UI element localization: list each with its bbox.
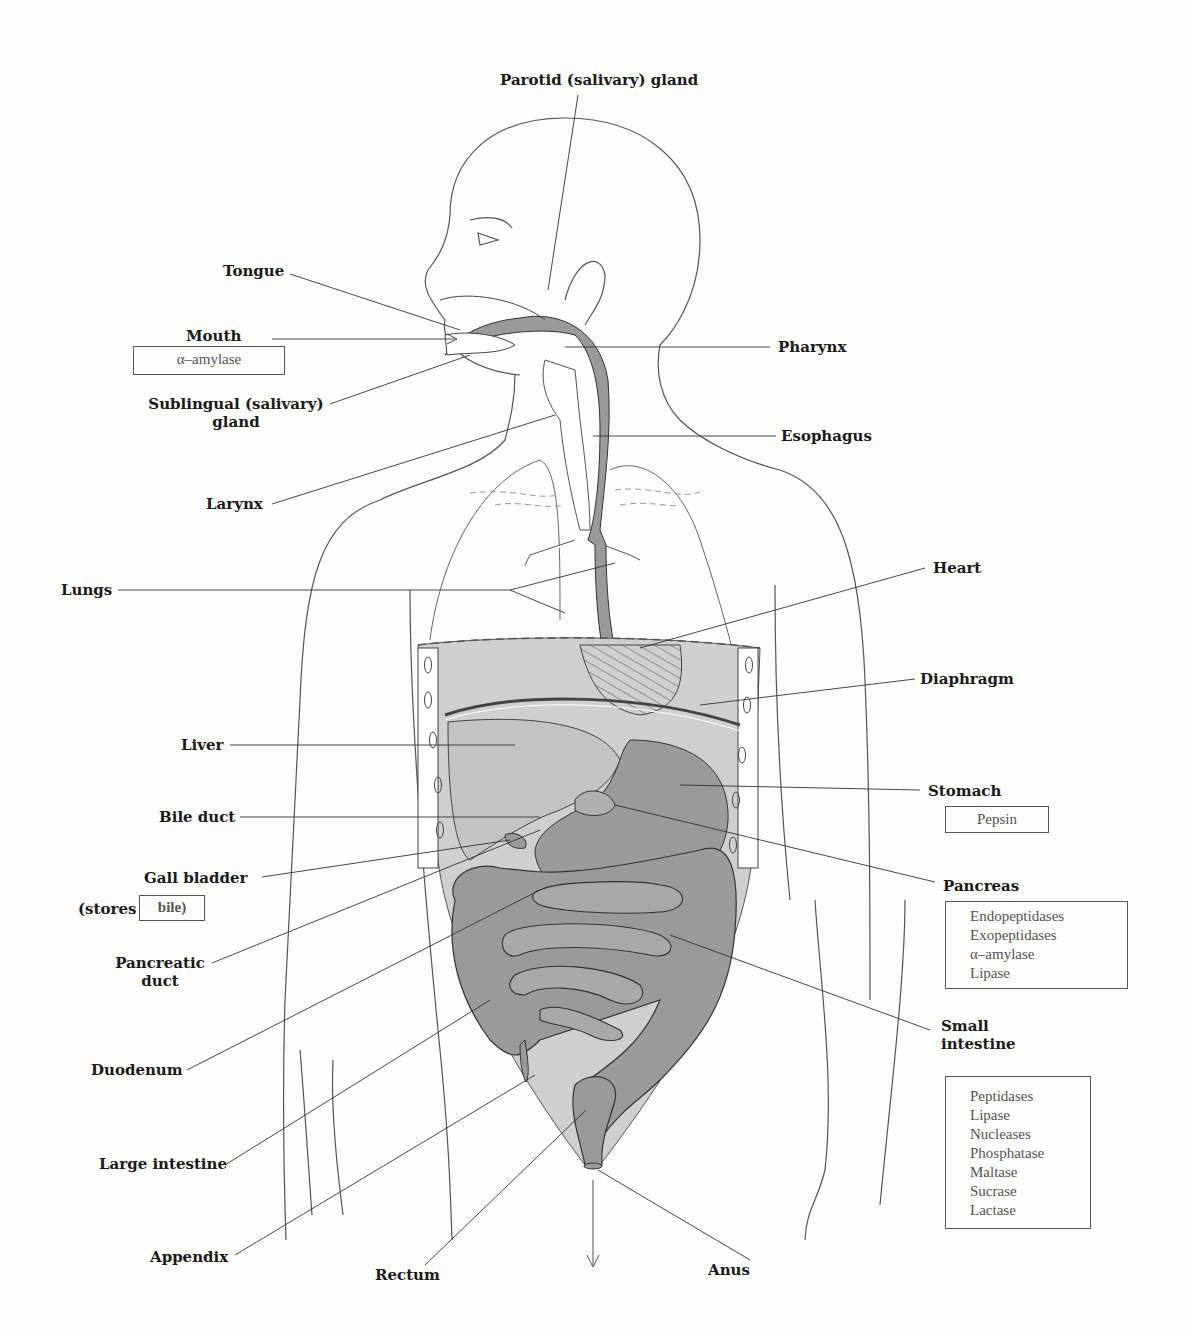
enzyme-nucleases: Nucleases xyxy=(970,1125,1090,1144)
label-sublingual-gland: Sublingual (salivary) gland xyxy=(146,395,326,431)
label-sublingual-line2: gland xyxy=(146,413,326,431)
label-parotid-gland: Parotid (salivary) gland xyxy=(500,71,698,89)
label-stores: (stores xyxy=(78,900,136,918)
enzyme-exopeptidases: Exopeptidases xyxy=(970,926,1127,945)
label-anus: Anus xyxy=(708,1261,750,1279)
label-liver: Liver xyxy=(181,736,223,754)
label-small-line2: intestine xyxy=(941,1035,1016,1053)
label-pancreas: Pancreas xyxy=(943,877,1019,895)
enzyme-endopeptidases: Endopeptidases xyxy=(970,907,1127,926)
label-larynx: Larynx xyxy=(206,495,263,513)
label-diaphragm: Diaphragm xyxy=(920,670,1014,688)
label-sublingual-line1: Sublingual (salivary) xyxy=(146,395,326,413)
label-pancreatic-line2: duct xyxy=(110,972,210,990)
enzyme-alpha-amylase: α–amylase xyxy=(134,347,284,369)
mouth-cavity xyxy=(445,333,515,355)
enzyme-peptidases: Peptidases xyxy=(970,1087,1090,1106)
label-esophagus: Esophagus xyxy=(781,427,872,445)
enzyme-pepsin: Pepsin xyxy=(946,807,1048,829)
anus xyxy=(584,1163,602,1169)
label-rectum: Rectum xyxy=(375,1266,440,1284)
label-small-intestine: Small intestine xyxy=(941,1017,1016,1053)
label-large-intestine: Large intestine xyxy=(99,1155,227,1173)
label-heart: Heart xyxy=(933,559,981,577)
enzyme-box-gall-bladder: bile) xyxy=(139,895,205,921)
label-tongue: Tongue xyxy=(223,262,284,280)
label-bile-duct: Bile duct xyxy=(159,808,235,826)
trachea xyxy=(525,360,640,565)
label-small-line1: Small xyxy=(941,1017,1016,1035)
enzyme-box-stomach: Pepsin xyxy=(945,806,1049,833)
enzyme-lipase: Lipase xyxy=(970,964,1127,983)
enzyme-lactase: Lactase xyxy=(970,1201,1090,1220)
label-mouth: Mouth xyxy=(186,327,241,345)
label-duodenum: Duodenum xyxy=(91,1061,183,1079)
enzyme-bile: bile) xyxy=(140,896,204,917)
label-gall-bladder: Gall bladder xyxy=(144,869,247,887)
enzyme-box-small-intestine: Peptidases Lipase Nucleases Phosphatase … xyxy=(945,1076,1091,1229)
label-lungs: Lungs xyxy=(61,581,112,599)
enzyme-phosphatase: Phosphatase xyxy=(970,1144,1090,1163)
enzyme-lipase: Lipase xyxy=(970,1106,1090,1125)
label-pancreatic-line1: Pancreatic xyxy=(110,954,210,972)
enzyme-alpha-amylase: α–amylase xyxy=(970,945,1127,964)
label-appendix: Appendix xyxy=(150,1248,228,1266)
label-pharynx: Pharynx xyxy=(778,338,846,356)
label-pancreatic-duct: Pancreatic duct xyxy=(110,954,210,990)
enzyme-sucrase: Sucrase xyxy=(970,1182,1090,1201)
enzyme-maltase: Maltase xyxy=(970,1163,1090,1182)
label-stomach: Stomach xyxy=(928,782,1001,800)
enzyme-box-pancreas: Endopeptidases Exopeptidases α–amylase L… xyxy=(945,901,1128,989)
enzyme-box-mouth: α–amylase xyxy=(133,346,285,375)
